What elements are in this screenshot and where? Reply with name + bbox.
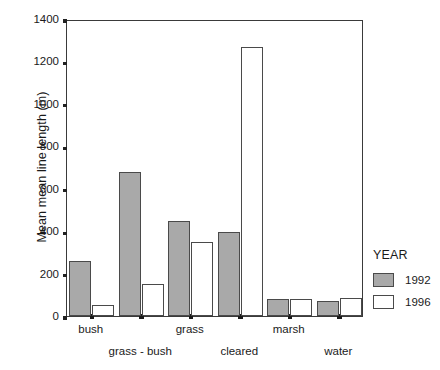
bar-marsh-1996 xyxy=(290,299,312,316)
bar-grass-bush-1992 xyxy=(119,172,141,316)
y-tick-mark xyxy=(63,104,67,107)
y-tick-label: 600 xyxy=(19,183,59,195)
bar-bush-1996 xyxy=(92,305,114,316)
bar-bush-1992 xyxy=(69,261,91,316)
x-category-label: cleared xyxy=(220,345,258,357)
x-category-label: marsh xyxy=(273,323,305,335)
y-tick-label: 200 xyxy=(19,268,59,280)
legend-label-1996: 1996 xyxy=(405,296,431,308)
y-tick-mark xyxy=(63,232,67,235)
y-tick-mark xyxy=(63,19,67,22)
plot-area: 0200400600800100012001400 xyxy=(66,20,363,317)
bar-marsh-1992 xyxy=(267,299,289,316)
y-tick-label: 400 xyxy=(19,225,59,237)
x-category-label: water xyxy=(324,345,352,357)
legend-item-1996[interactable]: 1996 xyxy=(371,291,440,313)
legend-swatch-1992 xyxy=(373,273,394,287)
bar-grass-1992 xyxy=(168,221,190,316)
y-tick-label: 800 xyxy=(19,140,59,152)
y-axis-title: Mean mean line length (m) xyxy=(35,37,49,297)
legend: YEAR 19921996 xyxy=(371,248,440,313)
y-tick-label: 1000 xyxy=(19,98,59,110)
y-tick-label: 1200 xyxy=(19,55,59,67)
legend-title: YEAR xyxy=(373,248,440,262)
legend-item-1992[interactable]: 1992 xyxy=(371,269,440,291)
x-category-label: grass xyxy=(176,323,204,335)
y-tick-mark xyxy=(63,316,67,319)
legend-items: 19921996 xyxy=(371,269,440,313)
legend-label-1992: 1992 xyxy=(405,274,431,286)
y-tick-label: 1400 xyxy=(19,13,59,25)
bar-grass-1996 xyxy=(191,242,213,316)
bar-grass-bush-1996 xyxy=(142,284,164,316)
y-tick-mark xyxy=(63,189,67,192)
y-tick-mark xyxy=(63,147,67,150)
legend-swatch-1996 xyxy=(373,295,394,309)
bar-cleared-1992 xyxy=(218,232,240,316)
x-category-label: grass - bush xyxy=(109,345,172,357)
y-tick-mark xyxy=(63,274,67,277)
bar-water-1992 xyxy=(317,301,339,316)
x-category-label: bush xyxy=(78,323,103,335)
y-tick-label: 0 xyxy=(19,310,59,322)
y-tick-mark xyxy=(63,62,67,65)
bar-water-1996 xyxy=(340,298,362,316)
bar-cleared-1996 xyxy=(241,47,263,316)
bar-chart-figure: Mean mean line length (m) 02004006008001… xyxy=(0,0,440,370)
